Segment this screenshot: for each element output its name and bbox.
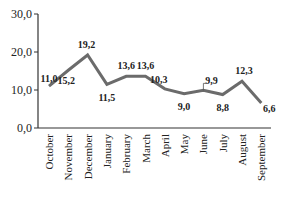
x-tick-label: January bbox=[101, 134, 113, 169]
x-tick-label: August bbox=[236, 134, 248, 166]
data-label: 13,6 bbox=[137, 60, 155, 71]
data-label: 13,6 bbox=[117, 60, 135, 71]
y-tick-label: 0,0 bbox=[17, 121, 32, 135]
x-tick-label: September bbox=[255, 134, 267, 181]
x-tick-label: July bbox=[217, 134, 229, 153]
x-tick-label: March bbox=[140, 134, 152, 163]
x-tick-label: June bbox=[197, 134, 209, 154]
y-tick-label: 20,0 bbox=[11, 45, 32, 59]
x-tick-label: February bbox=[120, 134, 132, 174]
data-label: 8,8 bbox=[216, 102, 229, 113]
x-axis: OctoberNovemberDecemberJanuaryFebruaryMa… bbox=[38, 128, 271, 181]
data-label: 19,2 bbox=[78, 39, 96, 50]
y-axis: 0,010,020,030,0 bbox=[11, 7, 38, 135]
data-label: 15,2 bbox=[58, 75, 76, 86]
data-label: 11,0 bbox=[41, 73, 58, 84]
data-label: 6,6 bbox=[263, 103, 276, 114]
x-tick-label: May bbox=[178, 134, 190, 155]
x-tick-label: November bbox=[62, 134, 74, 181]
data-labels: 11,015,219,211,513,613,610,39,09,98,812,… bbox=[41, 39, 276, 114]
data-label: 10,3 bbox=[150, 74, 168, 85]
x-tick-label: October bbox=[43, 134, 55, 170]
data-label: 12,3 bbox=[235, 65, 253, 76]
data-label: 9,0 bbox=[178, 101, 191, 112]
y-tick-label: 30,0 bbox=[11, 7, 32, 21]
data-label: 9,9 bbox=[205, 75, 218, 86]
line-chart: 0,010,020,030,0 OctoberNovemberDecemberJ… bbox=[0, 0, 281, 206]
y-tick-label: 10,0 bbox=[11, 83, 32, 97]
x-tick-label: December bbox=[82, 134, 94, 180]
x-tick-label: April bbox=[159, 134, 171, 157]
data-label: 11,5 bbox=[98, 92, 115, 103]
